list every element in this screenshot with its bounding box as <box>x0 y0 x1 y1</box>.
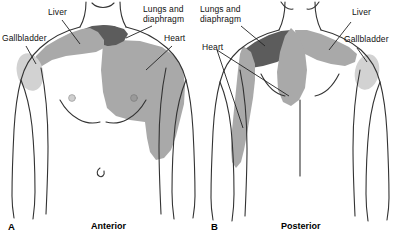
label-heart-anterior: Heart <box>164 33 185 43</box>
leader-lungs-diaphragm <box>241 26 265 46</box>
leader-heart-to-scapular <box>217 50 289 96</box>
caption-anterior: Anterior <box>91 221 126 231</box>
panel-posterior: Lungs and diaphragm Heart Liver Gallblad… <box>199 0 398 238</box>
caption-letter-a: A <box>8 221 15 232</box>
label-gallbladder-posterior: Gallbladder <box>344 34 389 44</box>
label-heart-posterior: Heart <box>202 42 223 52</box>
leader-gallbladder <box>357 48 367 62</box>
label-lungs-diaphragm-line1: Lungs and <box>200 4 258 14</box>
referred-pain-figure: Gallbladder Liver Lungs and diaphragm He… <box>0 0 398 238</box>
leader-liver <box>62 20 80 44</box>
leader-lungs-diaphragm <box>126 26 152 38</box>
label-liver-posterior: Liver <box>352 7 371 17</box>
leader-heart <box>146 46 172 70</box>
label-lungs-diaphragm-line2: diaphragm <box>143 14 199 24</box>
caption-posterior: Posterior <box>281 221 321 231</box>
panel-anterior: Gallbladder Liver Lungs and diaphragm He… <box>0 0 199 238</box>
label-lungs-diaphragm-line1: Lungs and <box>143 4 199 14</box>
label-gallbladder-anterior: Gallbladder <box>2 33 47 43</box>
label-liver-anterior: Liver <box>48 7 67 17</box>
label-lungs-diaphragm-anterior: Lungs and diaphragm <box>143 4 199 24</box>
leader-gallbladder <box>26 46 36 64</box>
label-lungs-diaphragm-posterior: Lungs and diaphragm <box>200 4 258 24</box>
label-lungs-diaphragm-line2: diaphragm <box>200 14 258 24</box>
caption-letter-b: B <box>211 221 218 232</box>
leader-lines-anterior <box>26 20 172 70</box>
leader-heart-to-flank <box>217 50 243 128</box>
